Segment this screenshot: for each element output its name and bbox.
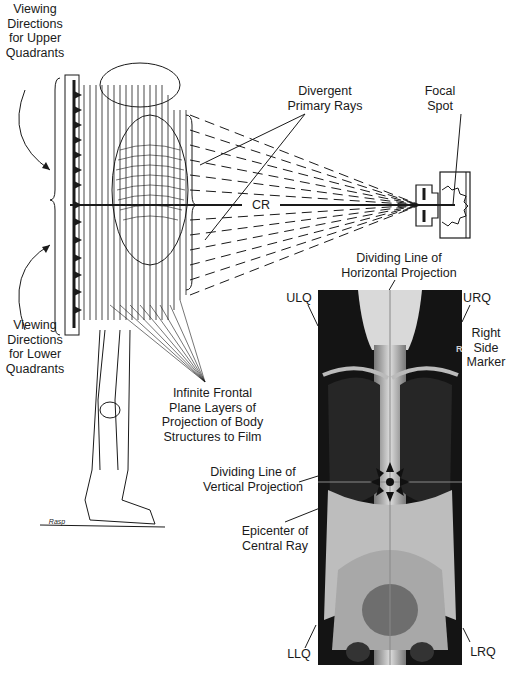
epicenter-star-icon xyxy=(370,462,410,502)
label-frontal-plane-layers: Infinite Frontal Plane Layers of Project… xyxy=(150,386,275,444)
artist-signature: Rasp xyxy=(42,515,72,530)
xray-film: R xyxy=(318,290,462,665)
label-urq: URQ xyxy=(462,291,492,306)
label-llq: LLQ xyxy=(284,647,314,662)
label-vertical-dividing-line: Dividing Line of Vertical Projection xyxy=(198,465,308,494)
label-focal-spot: Focal Spot xyxy=(418,84,462,113)
label-horizontal-dividing-line: Dividing Line of Horizontal Projection xyxy=(334,251,464,280)
label-epicenter-central-ray: Epicenter of Central Ray xyxy=(232,524,318,553)
label-right-side-marker: Right Side Marker xyxy=(460,326,512,370)
label-viewing-upper: Viewing Directions for Upper Quadrants xyxy=(2,2,68,60)
label-lrq: LRQ xyxy=(468,645,498,660)
label-viewing-lower: Viewing Directions for Lower Quadrants xyxy=(2,318,68,376)
viewing-arrow-icons xyxy=(42,91,82,314)
label-central-ray: CR xyxy=(246,198,276,213)
label-divergent-rays: Divergent Primary Rays xyxy=(285,84,365,113)
label-ulq: ULQ xyxy=(284,291,314,306)
